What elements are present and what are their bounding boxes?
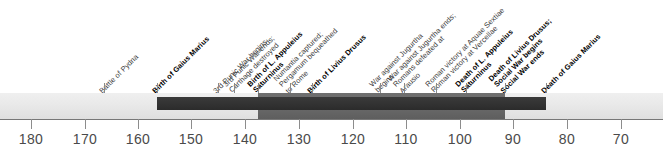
axis-tick-label: 80 bbox=[559, 131, 575, 147]
timeline-figure: Battle of PydnaBirth of Gaius Marius3rd … bbox=[0, 0, 663, 168]
axis-tick-label: 180 bbox=[19, 131, 44, 147]
axis-tick-label: 170 bbox=[73, 131, 98, 147]
timeline-band-layer bbox=[0, 93, 663, 119]
band-dark bbox=[157, 97, 546, 110]
axis-line bbox=[0, 119, 663, 120]
axis-tick bbox=[299, 119, 300, 129]
axis-tick-label: 160 bbox=[126, 131, 151, 147]
axis-tick bbox=[85, 119, 86, 129]
axis-tick bbox=[138, 119, 139, 129]
axis-tick-label: 130 bbox=[287, 131, 312, 147]
axis-tick-label: 140 bbox=[233, 131, 258, 147]
axis-tick-label: 100 bbox=[448, 131, 473, 147]
axis-tick bbox=[191, 119, 192, 129]
axis-tick bbox=[406, 119, 407, 129]
axis-tick-label: 70 bbox=[613, 131, 629, 147]
axis-tick bbox=[31, 119, 32, 129]
axis-tick bbox=[353, 119, 354, 129]
axis-tick bbox=[513, 119, 514, 129]
axis-tick-label: 150 bbox=[179, 131, 204, 147]
axis-tick bbox=[621, 119, 622, 129]
axis-tick-label: 120 bbox=[341, 131, 366, 147]
axis-tick-label: 90 bbox=[505, 131, 521, 147]
axis-tick bbox=[460, 119, 461, 129]
axis-tick bbox=[245, 119, 246, 129]
axis-tick bbox=[567, 119, 568, 129]
event-label-line: Birth of Gaius Marius bbox=[151, 35, 211, 95]
event-label-birth-of-gaius-marius: Birth of Gaius Marius bbox=[151, 35, 211, 95]
event-label-layer: Battle of PydnaBirth of Gaius Marius3rd … bbox=[0, 0, 663, 95]
axis-tick-label: 110 bbox=[394, 131, 418, 147]
